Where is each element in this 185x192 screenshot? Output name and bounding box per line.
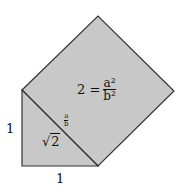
bottom-leg-label: 1	[56, 172, 64, 185]
area-equation: 2 = a² b²	[77, 77, 116, 102]
hypotenuse-sqrt-label: √2	[42, 134, 60, 149]
equation-numerator: a²	[104, 77, 116, 89]
radicand: 2	[50, 133, 59, 149]
diagram-canvas: 1 1 √2 a b 2 = a² b²	[0, 0, 185, 192]
ratio-a-over-b: a b	[64, 113, 68, 128]
ratio-denominator: b	[64, 121, 68, 128]
equation-lhs: 2 =	[77, 82, 100, 97]
ratio-numerator: a	[64, 113, 68, 120]
left-leg-label: 1	[6, 122, 14, 135]
equation-fraction: a² b²	[103, 77, 116, 102]
equation-denominator: b²	[103, 90, 116, 102]
